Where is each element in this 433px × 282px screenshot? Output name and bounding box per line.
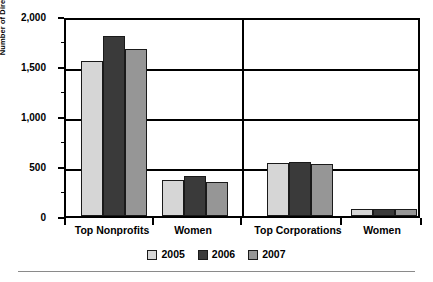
bar-2005-women	[351, 209, 373, 217]
y-axis-tick-label: 0	[0, 213, 46, 223]
y-axis-tick-label: 1,500	[0, 63, 46, 73]
plot-area	[64, 18, 420, 218]
bar-chart: Number of Directors 05001,0001,5002,000 …	[0, 0, 433, 282]
y-axis-tick-label: 1,000	[0, 113, 46, 123]
y-axis-tick-label: 2,000	[0, 13, 46, 23]
legend-swatch-icon	[198, 250, 208, 260]
x-axis-label-1: Women	[133, 224, 253, 236]
legend-label: 2007	[262, 249, 285, 260]
x-axis-label-3: Women	[322, 224, 433, 236]
legend-swatch-icon	[248, 250, 258, 260]
legend-label: 2005	[161, 249, 184, 260]
legend-item-2007[interactable]: 2007	[248, 249, 285, 260]
bar-2006-women	[373, 209, 395, 216]
legend-item-2006[interactable]: 2006	[198, 249, 235, 260]
y-axis-tick-label: 500	[0, 163, 46, 173]
bottom-divider	[18, 271, 415, 272]
legend-label: 2006	[212, 249, 235, 260]
legend-item-2005[interactable]: 2005	[147, 249, 184, 260]
bar-2007-women	[395, 209, 417, 216]
bar-group	[66, 20, 422, 216]
legend-swatch-icon	[147, 250, 157, 260]
chart-legend: 200520062007	[0, 249, 433, 260]
